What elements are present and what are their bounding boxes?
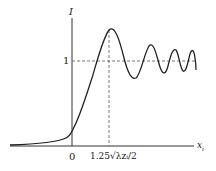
y-tick-one: 1 (63, 55, 69, 66)
edge-diffraction-figure: I 1 0 1.25√λzᵢ/2 xi (0, 0, 216, 171)
y-axis-label: I (69, 6, 73, 17)
intensity-curve (10, 29, 196, 145)
plot-canvas (0, 0, 216, 171)
x-axis-label-sub: i (202, 145, 204, 152)
x-tick-peak: 1.25√λzᵢ/2 (90, 151, 137, 161)
x-tick-zero: 0 (69, 151, 75, 162)
x-axis-label: xi (197, 140, 204, 152)
